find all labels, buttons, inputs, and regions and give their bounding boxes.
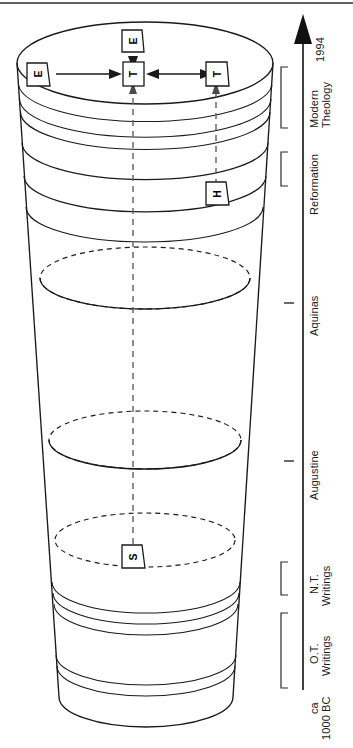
timeline-axis: 1994 Modern Theology Reformation Aquinas… [281,14,332,740]
edge-t-to-t-arrowhead-left [146,69,159,79]
node-e-top[interactable]: E [122,30,144,52]
timeline-label-1994: 1994 [314,37,326,62]
band-ring-3 [21,112,271,150]
section-ellipse-aquinas-solid [40,278,250,309]
band-ring-11 [57,666,235,696]
band-ring-7 [52,582,240,613]
node-t-right-label: T [211,70,223,77]
top-rim-ellipse [17,22,273,104]
node-e-left-label: E [32,70,44,77]
section-ellipse-nt-dashed [55,513,235,567]
node-t-right[interactable]: T [206,62,229,86]
timeline-label-nt-writings: Writings [320,565,332,606]
timeline-label-1000bc: 1000 BC [320,696,332,740]
bracket-modern-theology [281,67,288,128]
timeline-label-ot-writings: Writings [320,635,332,676]
node-e-top-label: E [127,37,139,44]
figure-canvas: E E T T H [0,0,353,748]
node-h[interactable]: H [206,182,229,205]
node-h-label: H [211,190,223,198]
timeline-arrowhead [294,14,312,44]
node-t-center-label: T [127,70,139,77]
band-ring-4 [22,143,268,180]
band-ring-8 [53,593,239,624]
tradition-funnel-diagram: E E T T H [0,0,353,748]
band-ring-2 [20,99,272,137]
funnel-body [17,22,273,727]
band-ring-5 [24,176,266,212]
dashed-risers [129,82,220,555]
timeline-label-modern: Modern [308,90,320,128]
timeline-label-theology: Theology [320,82,332,128]
band-ring-1 [19,85,273,122]
timeline-label-ot: O.T. [308,643,320,664]
node-s[interactable]: S [122,545,145,568]
bracket-ot-writings [281,613,288,688]
timeline-label-nt: N.T. [308,574,320,594]
bottom-rim-arc [59,697,233,727]
bracket-nt-writings [281,562,288,595]
right-wall [233,63,273,697]
timeline-label-reformation: Reformation [308,154,320,215]
edge-left-e-to-t-arrowhead [109,69,122,79]
timeline-label-ca: ca [308,701,320,714]
node-e-left[interactable]: E [27,63,50,86]
node-t-center[interactable]: T [123,62,144,86]
left-wall [17,63,59,697]
band-ring-9 [54,604,238,635]
timeline-label-augustine: Augustine [308,450,320,500]
band-ring-10 [56,655,236,685]
bracket-reformation [281,152,288,186]
timeline-label-aquinas: Aquinas [308,295,320,336]
section-ellipse-augustine-solid [49,440,241,469]
node-s-label: S [127,553,139,560]
